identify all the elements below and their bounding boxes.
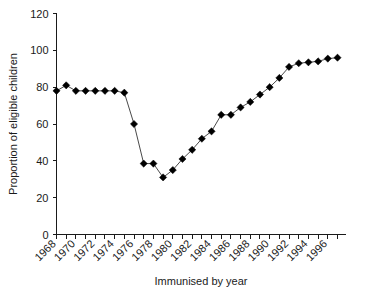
x-tick-label-1982: 1982 <box>168 237 194 263</box>
immunisation-line-chart: 1968197019721974197619781980198219841986… <box>0 0 380 296</box>
x-tick-label-1974: 1974 <box>90 237 116 263</box>
x-axis-ticks <box>57 235 338 239</box>
data-point-1989 <box>256 91 263 98</box>
x-tick-label-1992: 1992 <box>265 237 291 263</box>
x-tick-label-1970: 1970 <box>51 237 77 263</box>
data-point-1978 <box>150 160 157 167</box>
x-tick-label-1968: 1968 <box>32 237 58 263</box>
data-series-line <box>57 58 338 178</box>
data-point-1974 <box>111 87 118 94</box>
data-point-1970 <box>72 87 79 94</box>
y-tick-label-80: 80 <box>36 81 48 93</box>
y-tick-label-20: 20 <box>36 192 48 204</box>
y-axis-title: Proportion of eligible children <box>7 53 19 195</box>
x-tick-label-1990: 1990 <box>245 237 271 263</box>
x-tick-label-1978: 1978 <box>129 237 155 263</box>
data-point-1988 <box>247 98 254 105</box>
data-point-1984 <box>208 128 215 135</box>
x-axis-tick-labels: 1968197019721974197619781980198219841986… <box>32 237 329 263</box>
y-tick-label-40: 40 <box>36 155 48 167</box>
data-point-1985 <box>218 111 225 118</box>
y-tick-label-0: 0 <box>42 229 48 241</box>
data-point-1996 <box>324 55 331 62</box>
data-point-1972 <box>92 87 99 94</box>
y-axis-tick-labels: 020406080100120 <box>30 8 48 241</box>
data-point-1979 <box>159 174 166 181</box>
y-tick-label-60: 60 <box>36 118 48 130</box>
data-point-1995 <box>315 58 322 65</box>
data-point-1973 <box>101 87 108 94</box>
x-tick-label-1980: 1980 <box>148 237 174 263</box>
data-point-1993 <box>295 60 302 67</box>
data-point-1994 <box>305 59 312 66</box>
data-point-1977 <box>140 160 147 167</box>
data-point-1987 <box>237 104 244 111</box>
x-axis-title: Immunised by year <box>155 275 248 287</box>
chart-canvas: 1968197019721974197619781980198219841986… <box>0 0 380 296</box>
data-point-1971 <box>82 87 89 94</box>
x-tick-label-1976: 1976 <box>110 237 136 263</box>
data-point-1976 <box>130 120 137 127</box>
x-tick-label-1994: 1994 <box>284 237 310 263</box>
x-tick-label-1984: 1984 <box>187 237 213 263</box>
x-tick-label-1972: 1972 <box>71 237 97 263</box>
y-tick-label-100: 100 <box>30 44 48 56</box>
data-point-1997 <box>334 54 341 61</box>
data-point-1968 <box>53 87 60 94</box>
x-tick-label-1988: 1988 <box>226 237 252 263</box>
data-point-markers <box>53 54 341 181</box>
y-axis-ticks <box>53 14 57 235</box>
x-tick-label-1996: 1996 <box>303 237 329 263</box>
data-point-1969 <box>63 82 70 89</box>
x-tick-label-1986: 1986 <box>207 237 233 263</box>
data-point-1975 <box>121 89 128 96</box>
y-tick-label-120: 120 <box>30 8 48 20</box>
data-point-1986 <box>227 111 234 118</box>
